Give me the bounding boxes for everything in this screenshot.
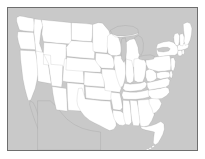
state-arkansas[interactable] [111, 92, 123, 110]
map-page [0, 0, 205, 159]
state-kentucky[interactable] [123, 82, 147, 91]
state-kansas[interactable] [84, 72, 104, 87]
key-3 [146, 149, 149, 150]
florida-keys-group [146, 145, 154, 150]
state-tennessee[interactable] [122, 90, 150, 99]
state-california[interactable] [20, 50, 38, 101]
state-west-virginia[interactable] [146, 69, 157, 82]
state-maine[interactable] [183, 22, 192, 45]
key-2 [149, 147, 152, 149]
us-states-map[interactable] [8, 8, 197, 150]
state-wyoming[interactable] [43, 43, 66, 67]
state-vermont[interactable] [174, 33, 180, 45]
state-delaware[interactable] [170, 71, 173, 78]
lake-superior [110, 26, 138, 36]
state-connecticut[interactable] [178, 50, 183, 56]
map-frame [7, 7, 198, 151]
lake-erie [139, 55, 155, 60]
state-new-jersey[interactable] [171, 58, 175, 71]
state-maryland[interactable] [156, 71, 170, 79]
state-rhode-island[interactable] [182, 50, 184, 55]
lake-michigan [121, 38, 127, 63]
state-washington[interactable] [17, 16, 35, 32]
state-north-dakota[interactable] [71, 23, 92, 42]
state-ohio[interactable] [134, 58, 147, 82]
key-1 [152, 145, 155, 147]
state-oregon[interactable] [17, 32, 35, 50]
state-montana[interactable] [41, 20, 71, 44]
state-south-dakota[interactable] [66, 41, 94, 59]
